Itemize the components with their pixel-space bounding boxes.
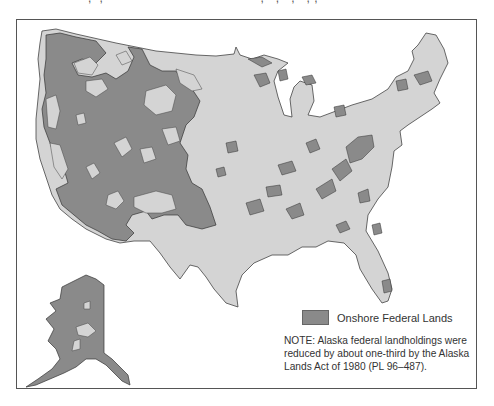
- map-legend: Onshore Federal Lands: [302, 310, 453, 325]
- alaska-note: NOTE: Alaska federal landholdings were r…: [284, 334, 474, 373]
- cropped-caption: , , , , , , ,: [0, 0, 494, 8]
- legend-label: Onshore Federal Lands: [337, 312, 453, 324]
- federal-lands-swatch: [302, 310, 329, 325]
